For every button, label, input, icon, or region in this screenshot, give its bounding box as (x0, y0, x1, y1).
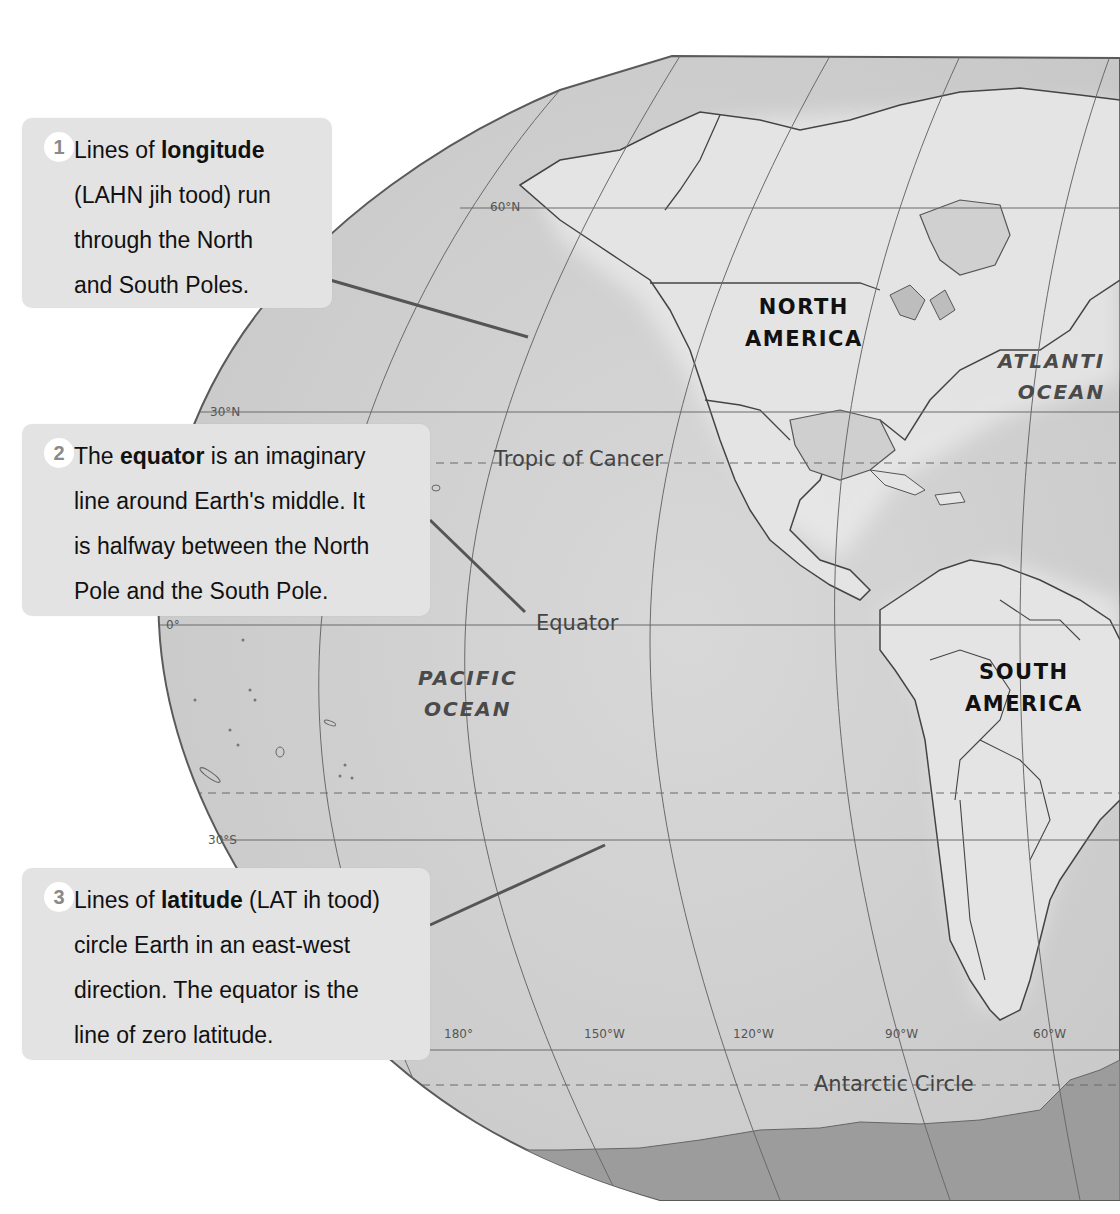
callout-line: and South Poles. (74, 263, 318, 308)
label-north-america: NORTH AMERICA (745, 291, 863, 355)
tick-90w: 90°W (885, 1027, 918, 1041)
callout-line: line of zero latitude. (74, 1013, 416, 1058)
callout-line: Lines of longitude (74, 128, 318, 173)
tick-30n: 30°N (210, 405, 240, 419)
tick-0: 0° (166, 618, 180, 632)
tick-120w: 120°W (733, 1027, 774, 1041)
label-equator: Equator (536, 611, 619, 635)
callout-line: The equator is an imaginary (74, 434, 416, 479)
tick-180: 180° (444, 1027, 473, 1041)
label-antarctic-circle: Antarctic Circle (814, 1072, 974, 1096)
tick-60w: 60°W (1033, 1027, 1066, 1041)
callout-number: 3 (44, 882, 74, 912)
callout-line: Lines of latitude (LAT ih tood) (74, 878, 416, 923)
callout-line: circle Earth in an east-west (74, 923, 416, 968)
callout-line: Pole and the South Pole. (74, 569, 416, 614)
callout-equator: 2 The equator is an imaginary line aroun… (22, 424, 430, 616)
callout-number: 1 (44, 132, 74, 162)
callout-line: line around Earth's middle. It (74, 479, 416, 524)
tick-30s: 30°S (208, 833, 237, 847)
callout-latitude: 3 Lines of latitude (LAT ih tood) circle… (22, 868, 430, 1060)
callout-line: direction. The equator is the (74, 968, 416, 1013)
tick-150w: 150°W (584, 1027, 625, 1041)
term-equator: equator (120, 443, 204, 469)
tick-60n: 60°N (490, 200, 520, 214)
label-tropic-of-cancer: Tropic of Cancer (494, 447, 663, 471)
callout-number: 2 (44, 438, 74, 468)
callout-longitude: 1 Lines of longitude (LAHN jih tood) run… (22, 118, 332, 308)
callout-line: (LAHN jih tood) run (74, 173, 318, 218)
term-latitude: latitude (161, 887, 243, 913)
label-atlantic-ocean: ATLANTI OCEAN (998, 346, 1105, 408)
term-longitude: longitude (161, 137, 264, 163)
callout-line: is halfway between the North (74, 524, 416, 569)
callout-line: through the North (74, 218, 318, 263)
label-south-america: SOUTH AMERICA (965, 656, 1083, 720)
label-pacific-ocean: PACIFIC OCEAN (418, 663, 518, 725)
